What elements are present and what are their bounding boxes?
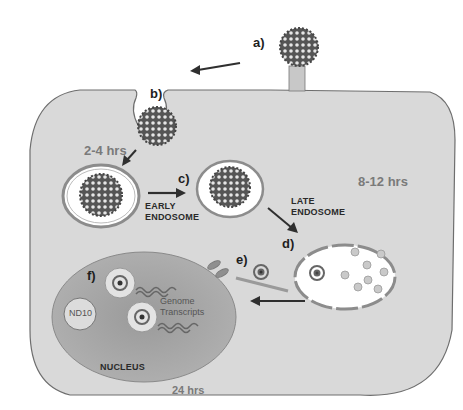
early-label-line2: ENDOSOME: [145, 212, 199, 222]
step-e-label: e): [236, 252, 248, 267]
genome-transcripts-label: Genome Transcripts: [160, 296, 204, 318]
time-8-12-label: 8-12 hrs: [358, 174, 408, 189]
late-label-line2: ENDOSOME: [291, 207, 345, 217]
early-endosome-1: [63, 165, 139, 227]
step-d-label: d): [282, 236, 294, 251]
diagram-canvas: [0, 0, 463, 410]
genome-line2: Transcripts: [160, 307, 204, 317]
time-24-label: 24 hrs: [172, 384, 204, 396]
step-f-label: f): [87, 268, 96, 283]
nucleus-label: NUCLEUS: [100, 362, 145, 373]
virus-entering: [138, 107, 176, 145]
early-endosome-label: EARLY ENDOSOME: [145, 201, 199, 223]
nd10-label: ND10: [69, 308, 92, 319]
early-endosome-2: [197, 161, 263, 217]
step-c-label: c): [178, 171, 190, 186]
late-endosome-label: LATE ENDOSOME: [291, 196, 345, 218]
early-label-line1: EARLY: [145, 201, 176, 211]
step-a-label: a): [253, 35, 265, 50]
late-endosome: [295, 245, 395, 309]
step-b-label: b): [150, 86, 162, 101]
receptor: [289, 66, 305, 91]
time-2-4-label: 2-4 hrs: [84, 143, 127, 158]
virus-attached: [280, 28, 318, 66]
arrow-a-b: [190, 63, 240, 75]
late-label-line1: LATE: [291, 196, 315, 206]
genome-line1: Genome: [160, 296, 195, 306]
